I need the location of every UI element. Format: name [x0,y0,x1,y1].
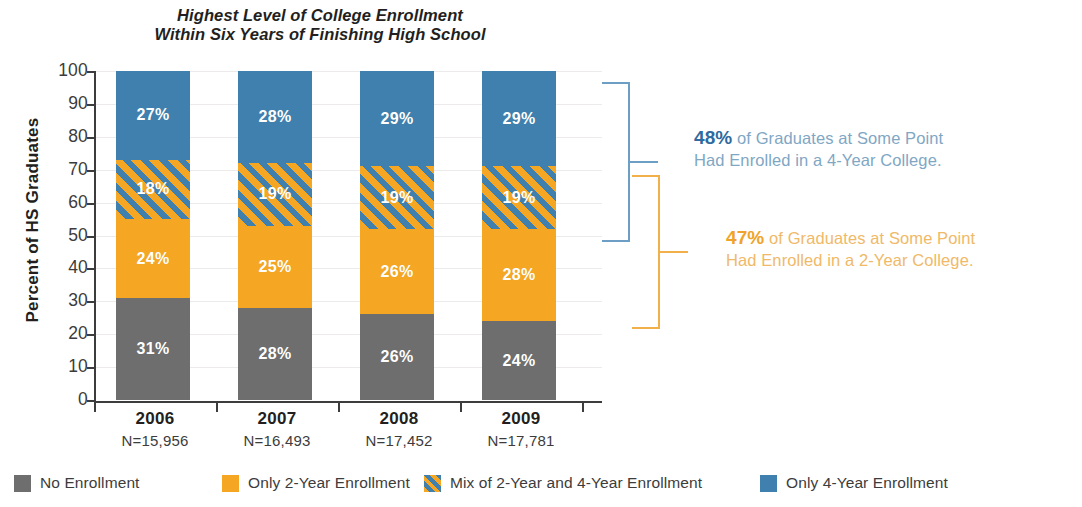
y-axis-tick-mark [87,170,94,172]
bar-segment-label: 27% [137,106,170,124]
bar-segment-label: 26% [381,263,414,281]
bar-segment-mix_2and4-2009[interactable]: 19% [482,166,556,229]
callout-2-year: 47% of Graduates at Some Point Had Enrol… [726,227,1082,271]
y-axis-tick-mark [87,104,94,106]
bar-2006[interactable]: 27%18%24%31% [116,71,190,400]
x-axis-labels: 2006N=15,9562007N=16,4932008N=17,4522009… [94,409,606,459]
y-axis-tick-mark [87,367,94,369]
x-axis-group-2007: 2007N=16,493 [217,409,337,449]
bar-segment-mix_2and4-2007[interactable]: 19% [238,163,312,226]
legend-item-no_enrollment[interactable]: No Enrollment [14,474,140,492]
bar-segment-no_enrollment-2007[interactable]: 28% [238,308,312,400]
x-axis-sample-size-label: N=17,781 [461,432,581,449]
bar-segment-label: 19% [503,189,536,207]
bar-segment-only_2year-2008[interactable]: 26% [360,229,434,315]
bar-segment-label: 25% [259,258,292,276]
bar-segment-label: 29% [503,110,536,128]
x-axis-sample-size-label: N=16,493 [217,432,337,449]
chart-title-line-2: Within Six Years of Finishing High Schoo… [60,25,580,44]
bar-2009[interactable]: 29%19%28%24% [482,71,556,400]
bar-segment-only_2year-2007[interactable]: 25% [238,226,312,308]
bar-segment-mix_2and4-2008[interactable]: 19% [360,166,434,229]
callout-2-year-line-1: 47% of Graduates at Some Point [726,227,1082,249]
callout-4-year-line-1: 48% of Graduates at Some Point [694,127,1074,149]
y-axis-tick-label: 60 [42,192,88,213]
y-axis-tick-label: 30 [42,290,88,311]
plot-area: 27%18%24%31%28%19%25%28%29%19%26%26%29%1… [94,71,602,402]
callout-2-year-line-2: Had Enrolled in a 2-Year College. [726,249,1082,271]
y-axis-tick-mark [87,268,94,270]
legend-item-mix_2and4[interactable]: Mix of 2-Year and 4-Year Enrollment [424,474,702,492]
legend-label: Only 2-Year Enrollment [248,474,410,492]
x-axis-group-2009: 2009N=17,781 [461,409,581,449]
y-axis-tick-label: 70 [42,159,88,180]
legend-item-only_2year[interactable]: Only 2-Year Enrollment [222,474,410,492]
y-axis-tick-labels: 1009080706050403020100 [36,71,88,402]
bar-segment-no_enrollment-2009[interactable]: 24% [482,321,556,400]
y-axis-tick-label: 90 [42,93,88,114]
bar-segment-label: 19% [381,189,414,207]
y-axis-tick-mark [87,400,94,402]
legend-swatch-no_enrollment [14,475,31,492]
bar-segment-only_4year-2007[interactable]: 28% [238,71,312,163]
y-axis-tick-label: 40 [42,257,88,278]
x-axis-group-2006: 2006N=15,956 [95,409,215,449]
bar-segment-label: 28% [503,266,536,284]
legend-item-only_4year[interactable]: Only 4-Year Enrollment [760,474,948,492]
callout-2-year-pct: 47% [726,227,764,248]
legend-label: No Enrollment [40,474,140,492]
legend-swatch-only_2year [222,475,239,492]
x-axis-year-label: 2009 [461,409,581,429]
y-axis-tick-mark [87,71,94,73]
y-axis-tick-mark [87,334,94,336]
y-axis-tick-mark [87,203,94,205]
callout-2-year-line-1-rest: of Graduates at Some Point [764,229,975,247]
y-axis-tick-label: 20 [42,323,88,344]
bar-segment-only_2year-2006[interactable]: 24% [116,219,190,298]
bar-segment-only_4year-2008[interactable]: 29% [360,71,434,166]
bar-segment-label: 31% [137,340,170,358]
callout-4-year-pct: 48% [694,127,732,148]
y-axis-tick-mark [87,236,94,238]
bar-segment-no_enrollment-2006[interactable]: 31% [116,298,190,400]
y-axis-tick-label: 80 [42,126,88,147]
bar-segment-only_2year-2009[interactable]: 28% [482,229,556,321]
x-axis-sample-size-label: N=15,956 [95,432,215,449]
x-axis-line [94,401,602,403]
legend-label: Only 4-Year Enrollment [786,474,948,492]
bar-segment-label: 29% [381,110,414,128]
legend-label: Mix of 2-Year and 4-Year Enrollment [450,474,702,492]
x-axis-group-2008: 2008N=17,452 [339,409,459,449]
legend-swatch-mix_2and4 [424,475,441,492]
bar-segment-label: 28% [259,108,292,126]
bar-segment-label: 26% [381,348,414,366]
x-axis-year-label: 2007 [217,409,337,429]
y-axis-tick-label: 50 [42,225,88,246]
chart-title: Highest Level of College Enrollment With… [60,6,580,44]
bar-segment-label: 24% [503,352,536,370]
x-axis-year-label: 2006 [95,409,215,429]
chart-title-line-1: Highest Level of College Enrollment [60,6,580,25]
bar-segment-label: 19% [259,185,292,203]
y-axis-line [94,71,96,402]
bar-segment-label: 28% [259,345,292,363]
bar-segment-label: 24% [137,250,170,268]
legend: No EnrollmentOnly 2-Year EnrollmentMix o… [0,474,1082,507]
y-axis-tick-mark [87,137,94,139]
y-axis-tick-mark [87,301,94,303]
bar-segment-no_enrollment-2008[interactable]: 26% [360,314,434,400]
bar-segment-mix_2and4-2006[interactable]: 18% [116,160,190,219]
x-axis-sample-size-label: N=17,452 [339,432,459,449]
y-axis-tick-label: 100 [42,60,88,81]
bar-2007[interactable]: 28%19%25%28% [238,71,312,400]
y-axis-tick-label: 0 [42,389,88,410]
y-axis-tick-label: 10 [42,356,88,377]
callout-4-year-line-2: Had Enrolled in a 4-Year College. [694,149,1074,171]
legend-swatch-only_4year [760,475,777,492]
callout-4-year-line-1-rest: of Graduates at Some Point [732,129,943,147]
legend-divider [0,466,1082,467]
x-axis-year-label: 2008 [339,409,459,429]
bar-segment-only_4year-2009[interactable]: 29% [482,71,556,166]
bar-segment-only_4year-2006[interactable]: 27% [116,71,190,160]
bar-2008[interactable]: 29%19%26%26% [360,71,434,400]
